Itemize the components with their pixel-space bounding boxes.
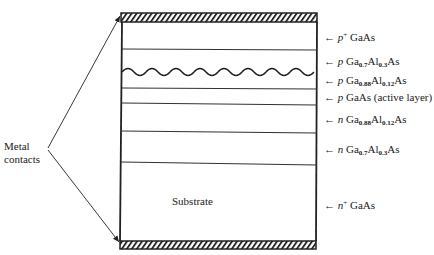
element-symbol: As xyxy=(394,74,406,86)
metal-contacts-label: Metal contacts xyxy=(4,140,40,166)
element-symbol: Ga xyxy=(346,55,359,67)
top-metal-contact xyxy=(121,13,317,22)
metal-contact-arrow-bottom xyxy=(48,150,119,242)
metal-label-line2: contacts xyxy=(4,153,40,166)
material-name: GaAs xyxy=(350,199,375,211)
substrate-label: Substrate xyxy=(172,195,213,207)
metal-contact-arrow-top xyxy=(48,16,120,148)
element-fraction: 0.88 xyxy=(359,119,371,127)
layer-label: ← n+ GaAs xyxy=(324,197,375,211)
device-right-edge xyxy=(316,22,317,241)
layer-boundary xyxy=(122,103,317,105)
metal-label-line1: Metal xyxy=(4,140,40,153)
left-arrow-icon: ← xyxy=(324,55,338,67)
doping-type: p xyxy=(338,91,344,103)
layer-label: ← n Ga0.88Al0.12As xyxy=(324,113,407,129)
layer-label: ← p Ga0.7Al0.3As xyxy=(324,55,400,71)
element-symbol: As xyxy=(387,55,399,67)
element-symbol: Al xyxy=(371,74,382,86)
doping-type: p xyxy=(338,74,344,86)
left-arrow-icon: ← xyxy=(324,91,338,103)
layer-boundary xyxy=(121,131,317,133)
layer-label: ← p+ GaAs xyxy=(324,29,375,43)
element-fraction: 0.12 xyxy=(382,119,394,127)
element-symbol: As xyxy=(387,143,399,155)
element-symbol: Ga xyxy=(346,113,359,125)
doping-type: n xyxy=(338,113,344,125)
element-symbol: Al xyxy=(368,143,379,155)
left-arrow-icon: ← xyxy=(324,143,338,155)
layer-boundary xyxy=(122,49,317,50)
left-arrow-icon: ← xyxy=(324,113,338,125)
doping-type: n xyxy=(338,143,344,155)
element-symbol: Al xyxy=(368,55,379,67)
element-fraction: 0.7 xyxy=(359,149,368,157)
element-fraction: 0.7 xyxy=(359,61,368,69)
wavy-layer-boundary xyxy=(122,69,314,76)
doping-superscript: + xyxy=(343,31,347,39)
element-symbol: Al xyxy=(371,113,382,125)
element-symbol: Ga xyxy=(346,74,359,86)
element-symbol: Ga xyxy=(346,143,359,155)
layer-boundary xyxy=(122,88,317,89)
material-name: GaAs xyxy=(350,31,375,43)
element-fraction: 0.12 xyxy=(382,80,394,88)
left-arrow-icon: ← xyxy=(324,31,338,43)
layer-label: ← p GaAs (active layer) xyxy=(324,91,432,103)
element-symbol: As xyxy=(394,113,406,125)
layer-boundary xyxy=(121,162,317,165)
doping-superscript: + xyxy=(343,199,347,207)
layer-label: ← n Ga0.7Al0.3As xyxy=(324,143,400,159)
material-name: GaAs (active layer) xyxy=(346,91,432,103)
element-fraction: 0.88 xyxy=(359,80,371,88)
left-arrow-icon: ← xyxy=(324,199,338,211)
doping-type: p xyxy=(338,55,344,67)
left-arrow-icon: ← xyxy=(324,74,338,86)
layer-label: ← p Ga0.88Al0.12As xyxy=(324,74,407,90)
bottom-metal-contact xyxy=(120,241,316,249)
